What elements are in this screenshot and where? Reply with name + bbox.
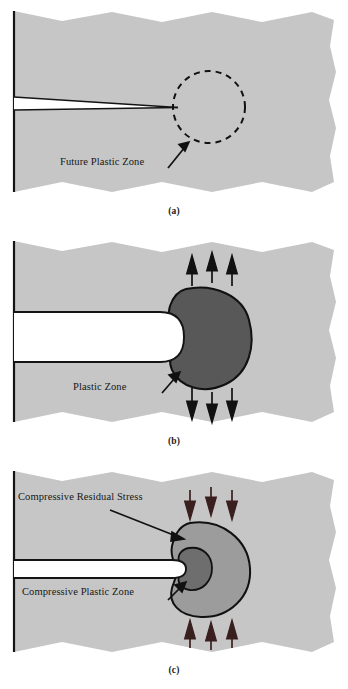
label-compressive-residual-stress: Compressive Residual Stress [18,491,143,502]
figure-crack-tip-plastic-zone: Future Plastic Zone (a) [0,0,348,689]
crack-blunt-slot-b [14,312,184,362]
crack-narrow-slot-c [14,560,186,578]
caption-panel-a: (a) [0,206,348,216]
label-compressive-plastic-zone: Compressive Plastic Zone [22,586,134,597]
panel-b [0,230,348,460]
label-plastic-zone: Plastic Zone [73,381,126,392]
label-future-plastic-zone: Future Plastic Zone [60,156,144,167]
caption-panel-b: (b) [0,436,348,446]
panel-a [0,0,348,230]
caption-panel-c: (c) [0,665,348,675]
